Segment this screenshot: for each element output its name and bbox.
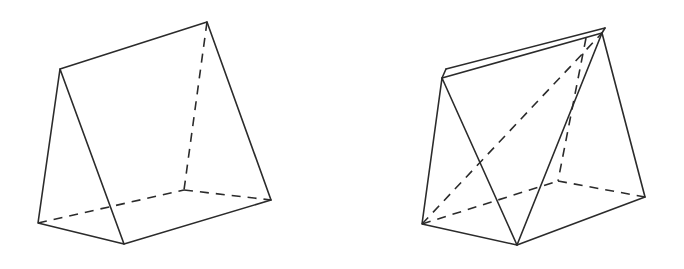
canvas-background [0,0,684,269]
geometry-diagram-canvas [0,0,684,269]
